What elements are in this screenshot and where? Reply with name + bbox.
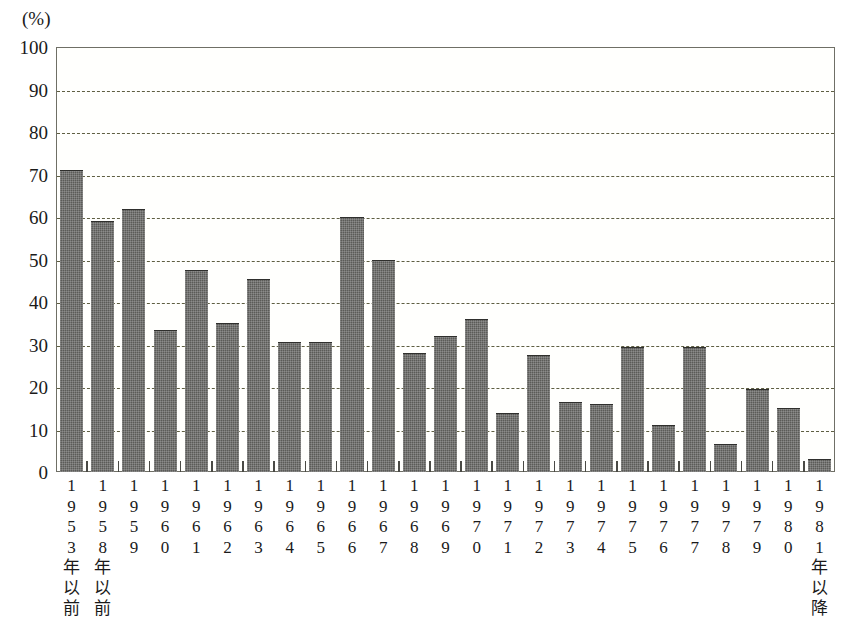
- y-tick-label-70: 70: [4, 166, 48, 185]
- x-axis-label: 1973: [555, 476, 586, 558]
- x-axis-label-char: 3: [243, 538, 274, 559]
- bar-slot: [804, 47, 835, 472]
- x-axis-label: 1980: [773, 476, 804, 558]
- bars-layer: [56, 47, 835, 472]
- x-axis-label-char: 1: [56, 476, 87, 497]
- x-axis-tick-mark: [86, 461, 88, 472]
- x-axis-label-char: 1: [149, 476, 180, 497]
- bar-slot: [430, 47, 461, 472]
- bar-slot: [181, 47, 212, 472]
- x-axis-label: 1962: [212, 476, 243, 558]
- x-axis-tick-mark: [149, 461, 151, 472]
- x-axis-label-char: 9: [118, 497, 149, 518]
- bar: [185, 270, 208, 472]
- x-axis-tick-mark: [273, 461, 275, 472]
- x-axis-label-char: 以: [56, 579, 87, 600]
- x-axis-tick-mark: [741, 461, 743, 472]
- x-axis-tick-mark: [554, 461, 556, 472]
- x-axis-label-char: 0: [149, 538, 180, 559]
- x-axis-label-char: 1: [461, 476, 492, 497]
- x-axis-label: 1960: [149, 476, 180, 558]
- x-axis-label-char: 0: [773, 538, 804, 559]
- x-axis-label-char: 1: [118, 476, 149, 497]
- x-axis-label-char: 6: [305, 517, 336, 538]
- x-axis-label-char: 6: [212, 517, 243, 538]
- bar: [372, 260, 395, 473]
- x-axis-label-char: 9: [648, 497, 679, 518]
- bar-slot: [617, 47, 648, 472]
- bar-slot: [710, 47, 741, 472]
- x-axis-tick-mark: [118, 461, 120, 472]
- bar: [808, 459, 831, 472]
- x-axis-label-char: 9: [523, 497, 554, 518]
- x-axis-label-char: 前: [87, 599, 118, 618]
- bar-slot: [742, 47, 773, 472]
- x-axis-label: 1974: [586, 476, 617, 558]
- bar-slot: [118, 47, 149, 472]
- x-axis-label-char: 9: [336, 497, 367, 518]
- x-axis-tick-mark: [429, 461, 431, 472]
- x-axis-label-char: 7: [492, 517, 523, 538]
- x-axis-label-char: 6: [648, 538, 679, 559]
- x-axis-label-char: 1: [586, 476, 617, 497]
- x-axis-label-char: 以: [87, 579, 118, 600]
- bar-slot: [212, 47, 243, 472]
- x-axis-label: 1968: [399, 476, 430, 558]
- y-tick-label-100: 100: [4, 38, 48, 57]
- x-axis-label-char: 9: [149, 497, 180, 518]
- x-axis-label-char: 1: [492, 538, 523, 559]
- x-axis-tick-mark: [678, 461, 680, 472]
- x-axis-label-char: 1: [181, 538, 212, 559]
- bar-slot: [523, 47, 554, 472]
- bar: [465, 319, 488, 472]
- x-axis-tick-mark: [367, 461, 369, 472]
- x-axis-label-char: 9: [368, 497, 399, 518]
- bar: [746, 389, 769, 472]
- x-axis-label-char: 0: [461, 538, 492, 559]
- x-axis-tick-mark: [211, 461, 213, 472]
- bar-slot: [492, 47, 523, 472]
- x-axis-label-char: 7: [710, 517, 741, 538]
- x-axis-label-char: 8: [710, 538, 741, 559]
- x-axis-tick-mark: [710, 461, 712, 472]
- x-axis-label-char: 6: [243, 517, 274, 538]
- x-axis-label-char: 1: [555, 476, 586, 497]
- x-axis-label-char: 1: [274, 476, 305, 497]
- x-axis-label-char: 9: [430, 538, 461, 559]
- x-axis-label-char: 9: [56, 497, 87, 518]
- x-axis-label-char: 1: [336, 476, 367, 497]
- bar: [777, 408, 800, 472]
- bar: [247, 279, 270, 472]
- x-axis-label-char: 7: [368, 538, 399, 559]
- x-axis-label-char: 1: [710, 476, 741, 497]
- bar: [91, 221, 114, 472]
- x-axis-tick-mark: [616, 461, 618, 472]
- x-axis-label: 1966: [336, 476, 367, 558]
- x-axis-tick-mark: [336, 461, 338, 472]
- bar-slot: [56, 47, 87, 472]
- bar-slot: [305, 47, 336, 472]
- bar-slot: [773, 47, 804, 472]
- x-axis-label-char: 6: [181, 517, 212, 538]
- x-axis-label: 1975: [617, 476, 648, 558]
- x-axis-label-char: 年: [804, 558, 835, 579]
- y-tick-label-80: 80: [4, 123, 48, 142]
- bar: [434, 336, 457, 472]
- x-axis-tick-mark: [180, 461, 182, 472]
- y-tick-label-40: 40: [4, 293, 48, 312]
- bar-slot: [586, 47, 617, 472]
- x-axis-label-char: 8: [804, 517, 835, 538]
- x-axis-label-char: 9: [243, 497, 274, 518]
- x-axis-label-char: 9: [804, 497, 835, 518]
- x-axis-label-char: 1: [804, 476, 835, 497]
- x-axis-label-char: 1: [679, 476, 710, 497]
- x-axis-label-char: 1: [492, 476, 523, 497]
- x-axis-label-char: 1: [648, 476, 679, 497]
- x-axis-label-char: 1: [399, 476, 430, 497]
- x-axis-label: 1977: [679, 476, 710, 558]
- x-axis-label-char: 6: [336, 517, 367, 538]
- x-axis-tick-mark: [772, 461, 774, 472]
- x-axis-label-char: 8: [87, 538, 118, 559]
- bar-slot: [149, 47, 180, 472]
- bar: [559, 402, 582, 472]
